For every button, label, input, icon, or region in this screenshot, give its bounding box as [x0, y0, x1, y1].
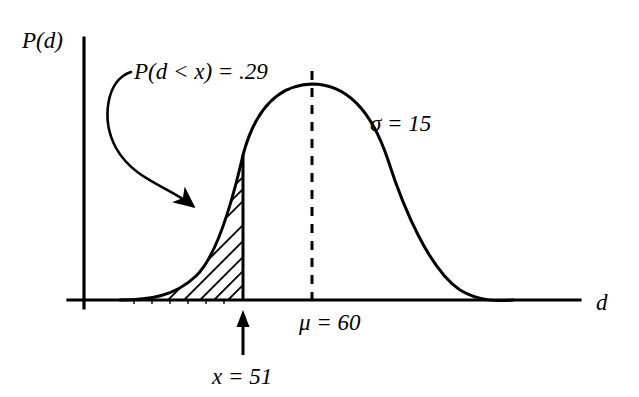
probability-annotation-label: P(d < x) = .29 [133, 59, 268, 84]
sigma-label: σ = 15 [370, 111, 431, 136]
shaded-tail-fill [120, 155, 243, 300]
mu-label: μ = 60 [298, 310, 361, 335]
cutoff-label: x = 51 [211, 364, 272, 389]
x-axis-label: d [596, 290, 608, 315]
normal-curve [120, 84, 513, 301]
normal-distribution-figure: P(d) d P(d < x) = .29 σ = 15 μ = 60 x = … [0, 0, 639, 397]
figure-root: P(d) d P(d < x) = .29 σ = 15 μ = 60 x = … [0, 0, 639, 397]
hatch-lines [60, 168, 316, 330]
cutoff-up-arrow [237, 310, 250, 355]
annotation-pointer-arrow [108, 72, 193, 206]
y-axis-label: P(d) [21, 28, 63, 53]
